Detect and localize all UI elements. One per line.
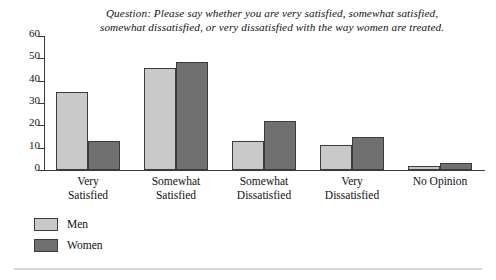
- legend-swatch-women: [34, 239, 58, 252]
- legend-swatch-men: [34, 218, 58, 231]
- bar-men-very-dissatisfied: [320, 145, 352, 170]
- bar-men-very-satisfied: [56, 92, 88, 170]
- chart-legend: MenWomen: [34, 215, 102, 257]
- bar-women-very-dissatisfied: [352, 137, 384, 171]
- x-axis-label-very-dissatisfied: VeryDissatisfied: [308, 175, 396, 202]
- chart-title-line-1: Question: Please say whether you are ver…: [62, 6, 482, 20]
- bar-men-somewhat-dissatisfied: [232, 141, 264, 170]
- y-axis-tick-label: 50: [12, 50, 40, 61]
- x-axis-label-somewhat-satisfied: SomewhatSatisfied: [132, 175, 220, 202]
- bar-women-somewhat-dissatisfied: [264, 121, 296, 170]
- chart-title: Question: Please say whether you are ver…: [62, 6, 482, 34]
- y-axis-tick-label: 10: [12, 140, 40, 151]
- x-axis-label-line: Very: [44, 175, 132, 189]
- bottom-divider: [14, 268, 482, 270]
- x-axis-label-line: Satisfied: [44, 189, 132, 203]
- x-axis-label-line: Satisfied: [132, 189, 220, 203]
- chart-title-line-2: somewhat dissatisfied, or very dissatisf…: [62, 20, 482, 34]
- bar-women-no-opinion: [440, 163, 472, 170]
- y-axis-tick-label: 20: [12, 117, 40, 128]
- x-axis-label-line: Somewhat: [220, 175, 308, 189]
- legend-label-men: Men: [67, 218, 88, 231]
- plot-area: [44, 36, 484, 170]
- y-axis-tick-label: 60: [12, 28, 40, 39]
- bar-women-somewhat-satisfied: [176, 62, 208, 170]
- y-axis-tick-mark: [38, 170, 44, 171]
- legend-item-men: Men: [34, 215, 102, 233]
- y-axis-tick-label: 40: [12, 73, 40, 84]
- y-axis-tick-label: 0: [12, 162, 40, 173]
- x-axis-baseline: [44, 170, 485, 171]
- x-axis-label-no-opinion: No Opinion: [396, 175, 484, 189]
- y-axis-tick: 0: [0, 170, 56, 171]
- y-axis-tick-label: 30: [12, 95, 40, 106]
- x-axis-label-line: Very: [308, 175, 396, 189]
- x-axis-label-line: No Opinion: [396, 175, 484, 189]
- x-axis-label-very-satisfied: VerySatisfied: [44, 175, 132, 202]
- x-axis-label-line: Somewhat: [132, 175, 220, 189]
- bar-men-no-opinion: [408, 166, 440, 170]
- legend-label-women: Women: [67, 239, 102, 252]
- bar-men-somewhat-satisfied: [144, 68, 176, 170]
- bar-women-very-satisfied: [88, 141, 120, 170]
- x-axis-label-somewhat-dissatisfied: SomewhatDissatisfied: [220, 175, 308, 202]
- x-axis-label-line: Dissatisfied: [308, 189, 396, 203]
- legend-item-women: Women: [34, 236, 102, 254]
- x-axis-label-line: Dissatisfied: [220, 189, 308, 203]
- chart-figure: Question: Please say whether you are ver…: [0, 0, 496, 280]
